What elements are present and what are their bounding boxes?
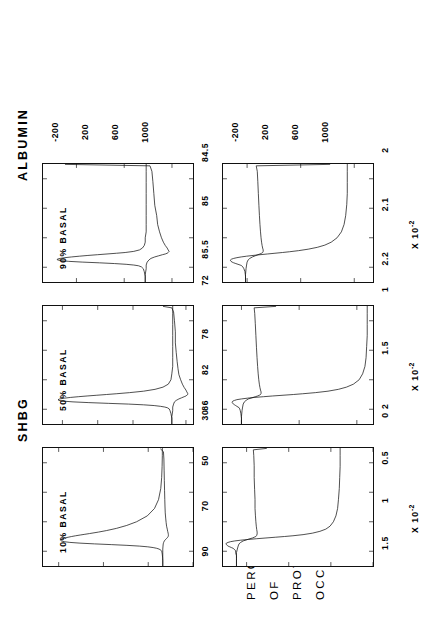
plot-canvas (223, 306, 373, 424)
y-tick-label: 2 (380, 386, 390, 426)
plot-canvas (223, 448, 373, 566)
axis-multiplier-label: X 10-2 (408, 363, 420, 391)
y-tick-label: 70 (200, 486, 210, 526)
y-tick-label: 2.2 (380, 239, 390, 279)
y-tick-label: 86 (200, 385, 210, 425)
axis-multiplier-base: X 10 (410, 369, 420, 391)
data-curve (231, 164, 348, 282)
x-tick-label: 200 (260, 112, 270, 152)
panel-annotation: 90% BASAL (58, 206, 68, 269)
data-curve (241, 306, 276, 424)
column-title-albumin: ALBUMIN (16, 108, 30, 181)
x-tick-label: 600 (110, 112, 120, 152)
y-tick-label: 50 (200, 440, 210, 480)
x-tick-label: 1000 (140, 112, 150, 152)
data-curve (232, 306, 367, 424)
y-tick-label: 1.5 (380, 328, 390, 368)
y-tick-label: 1 (380, 480, 390, 520)
y-tick-label: 2.1 (380, 184, 390, 224)
axis-multiplier-label: X 10-2 (408, 221, 420, 249)
data-curve (226, 448, 340, 566)
figure-root: SHBG ALBUMIN PERCENTAGE OF PROTEIN OCCUP… (0, 0, 437, 624)
plot-panel (222, 447, 374, 567)
data-curve (236, 448, 266, 566)
y-tick-label: 85 (200, 181, 210, 221)
axis-multiplier-exponent: -2 (408, 363, 415, 369)
axis-multiplier-exponent: -2 (408, 505, 415, 511)
plot-panel (222, 163, 374, 283)
x-tick-label: 200 (80, 112, 90, 152)
axis-multiplier-base: X 10 (410, 227, 420, 249)
axis-title-line-2: OF (268, 579, 280, 600)
data-curve (246, 164, 331, 282)
x-tick-label: 1000 (320, 112, 330, 152)
plot-canvas (223, 164, 373, 282)
data-curve (160, 449, 168, 566)
y-tick-label: 2 (380, 130, 390, 170)
plot-panel (222, 305, 374, 425)
y-tick-label: 1.5 (380, 523, 390, 563)
data-curve (65, 164, 169, 282)
y-tick-label: 0.5 (380, 438, 390, 478)
data-curve (163, 306, 188, 424)
y-tick-label: 82 (200, 350, 210, 390)
x-tick-label: 600 (290, 112, 300, 152)
column-title-shbg: SHBG (16, 397, 30, 442)
y-tick-label: 84.5 (200, 132, 210, 172)
panel-annotation: 50% BASAL (58, 348, 68, 411)
y-tick-label: 85.5 (200, 229, 210, 269)
data-curve (60, 448, 162, 566)
data-curve (58, 306, 173, 424)
y-tick-label: 78 (200, 314, 210, 354)
x-tick-label: -200 (230, 112, 240, 152)
axis-multiplier-label: X 10-2 (408, 505, 420, 533)
axis-multiplier-base: X 10 (410, 511, 420, 533)
x-tick-label: -200 (50, 112, 60, 152)
data-curve (57, 164, 146, 282)
y-tick-label: 90 (200, 531, 210, 571)
axis-multiplier-exponent: -2 (408, 221, 415, 227)
panel-annotation: 10% BASAL (58, 490, 68, 553)
